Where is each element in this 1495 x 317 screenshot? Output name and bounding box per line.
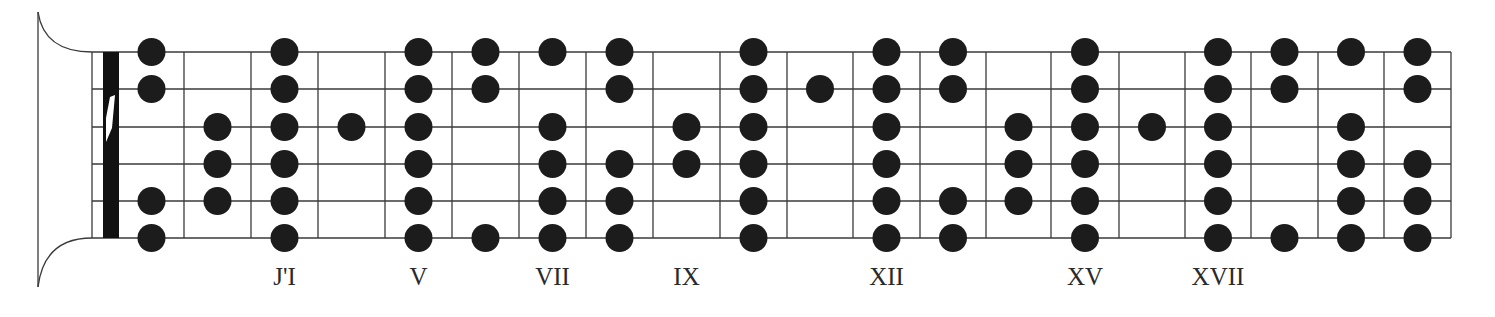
scale-dot xyxy=(1404,224,1432,252)
scale-dot xyxy=(606,224,634,252)
scale-dot xyxy=(271,224,299,252)
scale-dot xyxy=(204,113,232,141)
headstock-curve-top xyxy=(38,12,92,52)
scale-dot xyxy=(740,187,768,215)
scale-dot xyxy=(939,38,967,66)
scale-dot xyxy=(1404,150,1432,178)
scale-dot xyxy=(539,38,567,66)
scale-dot xyxy=(1071,75,1099,103)
scale-dot xyxy=(1204,38,1232,66)
fret-label-17: XVII xyxy=(1192,263,1245,291)
scale-dot xyxy=(405,187,433,215)
scale-dot xyxy=(606,150,634,178)
fret-label-3: J'I xyxy=(273,263,296,291)
scale-dot xyxy=(204,187,232,215)
fret-label-7: VII xyxy=(535,263,570,291)
scale-dot xyxy=(1204,150,1232,178)
nut-bar xyxy=(103,52,119,238)
scale-dot xyxy=(1071,187,1099,215)
fret-label-15: XV xyxy=(1067,263,1103,291)
fret-label-12: XII xyxy=(869,263,904,291)
nut xyxy=(103,52,119,238)
scale-dot xyxy=(1005,113,1033,141)
headstock-curve-bottom xyxy=(38,238,92,287)
scale-dot xyxy=(606,75,634,103)
scale-dot xyxy=(138,224,166,252)
scale-dot xyxy=(873,113,901,141)
scale-dot xyxy=(873,187,901,215)
strings xyxy=(92,52,1451,238)
scale-dot xyxy=(806,75,834,103)
scale-dot xyxy=(1337,224,1365,252)
scale-dot xyxy=(539,224,567,252)
scale-dot xyxy=(740,38,768,66)
scale-dot xyxy=(271,113,299,141)
fretboard-diagram xyxy=(0,0,1495,317)
scale-dot xyxy=(1204,75,1232,103)
scale-dot xyxy=(405,75,433,103)
scale-dot xyxy=(138,75,166,103)
scale-dot xyxy=(740,75,768,103)
scale-dot xyxy=(405,113,433,141)
scale-dot xyxy=(939,187,967,215)
scale-dot xyxy=(138,38,166,66)
scale-dot xyxy=(939,75,967,103)
scale-dot xyxy=(1271,224,1299,252)
headstock-outline xyxy=(38,12,92,287)
scale-dot xyxy=(740,113,768,141)
scale-dot xyxy=(1071,38,1099,66)
scale-dot xyxy=(539,150,567,178)
scale-dot xyxy=(539,187,567,215)
scale-dot xyxy=(405,38,433,66)
scale-dot xyxy=(1071,224,1099,252)
scale-dot xyxy=(873,38,901,66)
scale-dot xyxy=(472,75,500,103)
scale-dot xyxy=(1071,150,1099,178)
scale-dot xyxy=(1337,187,1365,215)
scale-dot xyxy=(1138,113,1166,141)
scale-dot xyxy=(1005,187,1033,215)
scale-dot xyxy=(673,150,701,178)
scale-dot xyxy=(873,75,901,103)
scale-dot xyxy=(1404,187,1432,215)
scale-dot xyxy=(271,38,299,66)
scale-dot xyxy=(271,150,299,178)
scale-dot xyxy=(873,150,901,178)
scale-dots xyxy=(138,38,1432,252)
scale-dot xyxy=(271,75,299,103)
scale-dot xyxy=(1071,113,1099,141)
scale-dot xyxy=(1337,150,1365,178)
scale-dot xyxy=(606,38,634,66)
scale-dot xyxy=(1404,38,1432,66)
scale-dot xyxy=(204,150,232,178)
scale-dot xyxy=(1337,113,1365,141)
scale-dot xyxy=(539,113,567,141)
scale-dot xyxy=(472,38,500,66)
scale-dot xyxy=(1404,75,1432,103)
scale-dot xyxy=(338,113,366,141)
scale-dot xyxy=(1204,224,1232,252)
scale-dot xyxy=(740,224,768,252)
scale-dot xyxy=(1271,38,1299,66)
scale-dot xyxy=(405,224,433,252)
scale-dot xyxy=(873,224,901,252)
scale-dot xyxy=(673,113,701,141)
scale-dot xyxy=(271,187,299,215)
scale-dot xyxy=(472,224,500,252)
scale-dot xyxy=(405,150,433,178)
scale-dot xyxy=(1204,113,1232,141)
scale-dot xyxy=(1005,150,1033,178)
scale-dot xyxy=(138,187,166,215)
scale-dot xyxy=(939,224,967,252)
scale-dot xyxy=(1271,75,1299,103)
scale-dot xyxy=(740,150,768,178)
fret-label-9: IX xyxy=(673,263,699,291)
scale-dot xyxy=(606,187,634,215)
scale-dot xyxy=(1204,187,1232,215)
fret-label-5: V xyxy=(409,263,427,291)
scale-dot xyxy=(1337,38,1365,66)
